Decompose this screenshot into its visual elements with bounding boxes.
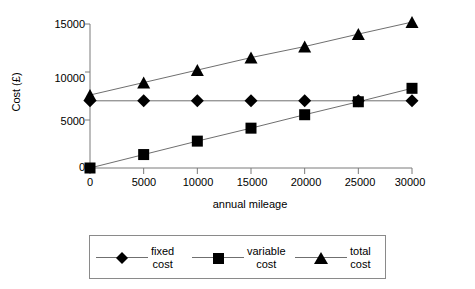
legend-entry-variable-cost: variable cost — [192, 236, 286, 280]
legend-key-variable-cost — [192, 249, 244, 267]
data-point-fixed-cost — [406, 94, 419, 107]
legend-label-total-cost-line1: total — [350, 245, 371, 258]
data-point-variable-cost — [353, 96, 364, 107]
data-point-fixed-cost — [191, 94, 204, 107]
data-point-total-cost — [406, 16, 419, 28]
legend-label-fixed-cost: fixed cost — [151, 245, 174, 271]
legend-key-total-cost — [295, 249, 347, 267]
data-point-variable-cost — [299, 109, 310, 120]
data-point-total-cost — [191, 64, 204, 76]
data-point-variable-cost — [407, 83, 418, 94]
legend-label-fixed-cost-line1: fixed — [151, 245, 174, 258]
data-point-total-cost — [352, 28, 365, 40]
legend-entry-fixed-cost: fixed cost — [96, 236, 174, 280]
x-axis-ticks — [90, 168, 412, 174]
legend-key-fixed-cost — [96, 249, 148, 267]
data-point-variable-cost — [246, 123, 257, 134]
data-point-variable-cost — [85, 163, 96, 174]
series-markers — [84, 16, 419, 173]
data-point-total-cost — [84, 89, 97, 101]
triangle-marker-icon — [295, 249, 347, 267]
legend-label-variable-cost-line1: variable — [247, 245, 286, 258]
data-point-variable-cost — [192, 136, 203, 147]
data-point-fixed-cost — [137, 94, 150, 107]
diamond-marker-icon — [96, 249, 148, 267]
data-point-fixed-cost — [298, 94, 311, 107]
data-point-variable-cost — [138, 149, 149, 160]
legend-label-variable-cost-line2: cost — [247, 258, 286, 271]
square-marker-icon — [192, 249, 244, 267]
chart-legend: fixed cost variable cost — [89, 235, 386, 279]
chart-figure: Cost (£) annual mileage 15000 10000 5000… — [0, 0, 475, 289]
data-point-total-cost — [245, 52, 258, 64]
legend-label-fixed-cost-line2: cost — [151, 258, 174, 271]
data-point-total-cost — [137, 77, 150, 89]
legend-label-total-cost: total cost — [350, 245, 371, 271]
legend-label-total-cost-line2: cost — [350, 258, 371, 271]
legend-label-variable-cost: variable cost — [247, 245, 286, 271]
data-point-fixed-cost — [245, 94, 258, 107]
data-point-total-cost — [298, 41, 311, 53]
legend-entry-total-cost: total cost — [295, 236, 371, 280]
